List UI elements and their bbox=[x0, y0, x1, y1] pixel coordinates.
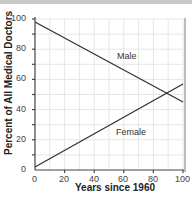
y-tick-60: 60 bbox=[16, 73, 26, 83]
y-tick-0: 0 bbox=[21, 164, 26, 174]
y-axis-label: Percent of All Medical Doctors bbox=[3, 25, 15, 155]
y-tick-80: 80 bbox=[16, 43, 26, 53]
plot-area bbox=[0, 0, 192, 198]
x-tick-100: 100 bbox=[175, 174, 190, 184]
y-tick-40: 40 bbox=[16, 104, 26, 114]
male-label: Male bbox=[117, 51, 137, 61]
y-tick-20: 20 bbox=[16, 134, 26, 144]
x-tick-0: 0 bbox=[32, 174, 37, 184]
chart-root: 100 80 60 40 20 0 0 20 40 60 80 100 Male… bbox=[0, 0, 192, 198]
grid bbox=[35, 19, 183, 170]
female-label: Female bbox=[116, 127, 146, 137]
x-axis-label: Years since 1960 bbox=[60, 182, 170, 193]
